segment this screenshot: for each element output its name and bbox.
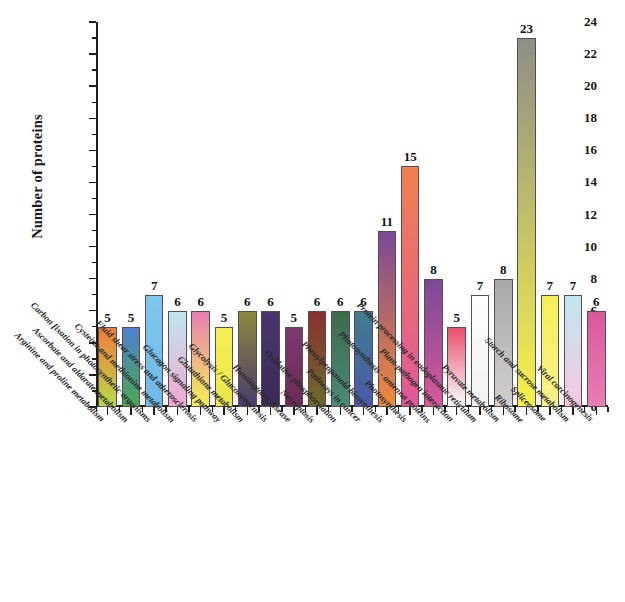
y-tick-major — [89, 246, 96, 247]
x-tick-minor — [607, 407, 608, 412]
y-tick-label: 22 — [584, 46, 597, 62]
bar-value-label: 5 — [453, 310, 460, 326]
y-tick-minor — [92, 166, 96, 167]
bar-value-label: 8 — [430, 262, 437, 278]
bar-value-label: 6 — [593, 294, 600, 310]
y-tick-minor — [92, 69, 96, 70]
bar-value-label: 11 — [381, 214, 393, 230]
bar-value-label: 7 — [547, 278, 554, 294]
bar-value-label: 7 — [570, 278, 577, 294]
bar-value-label: 5 — [291, 310, 298, 326]
bar-value-label: 6 — [197, 294, 204, 310]
y-tick-major — [89, 118, 96, 119]
bar: 6 — [587, 311, 606, 407]
y-tick-label: 18 — [584, 110, 597, 126]
bar-value-label: 5 — [221, 310, 228, 326]
y-tick-label: 10 — [584, 239, 597, 255]
y-tick-major — [89, 278, 96, 279]
y-tick-major — [89, 21, 96, 22]
y-tick-label: 8 — [591, 271, 598, 287]
bar-value-label: 7 — [151, 278, 158, 294]
y-tick-label: 24 — [584, 14, 597, 30]
y-tick-minor — [92, 37, 96, 38]
y-tick-label: 20 — [584, 78, 597, 94]
y-tick-major — [89, 310, 96, 311]
bar-value-label: 6 — [267, 294, 274, 310]
y-tick-major — [89, 85, 96, 86]
y-tick-minor — [92, 134, 96, 135]
bar-value-label: 23 — [520, 21, 533, 37]
x-tick-major — [596, 407, 597, 415]
y-tick-label: 16 — [584, 142, 597, 158]
y-tick-major — [89, 214, 96, 215]
bar-value-label: 7 — [477, 278, 484, 294]
bar-value-label: 6 — [174, 294, 181, 310]
y-tick-label: 14 — [584, 174, 597, 190]
y-tick-minor — [92, 230, 96, 231]
x-axis-labels: Arginine and proline metabolismAscorbate… — [96, 415, 608, 601]
y-tick-minor — [92, 262, 96, 263]
y-tick-major — [89, 374, 96, 375]
bar-value-label: 6 — [337, 294, 344, 310]
y-tick-label: 12 — [584, 207, 597, 223]
bar-value-label: 6 — [244, 294, 251, 310]
bar-value-label: 5 — [128, 310, 135, 326]
y-tick-minor — [92, 198, 96, 199]
y-tick-minor — [92, 102, 96, 103]
bar-value-label: 6 — [314, 294, 321, 310]
bar: 23 — [517, 38, 536, 407]
bar-chart: Number of proteins 024681012141618202224… — [0, 0, 625, 602]
y-tick-major — [89, 53, 96, 54]
y-tick-major — [89, 182, 96, 183]
y-axis-title: Number of proteins — [29, 77, 46, 277]
y-tick-minor — [92, 294, 96, 295]
bar-value-label: 8 — [500, 262, 507, 278]
bar-value-label: 15 — [404, 149, 417, 165]
y-tick-major — [89, 150, 96, 151]
